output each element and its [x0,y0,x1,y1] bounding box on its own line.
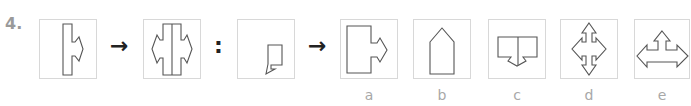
rect-right-arrow-icon [40,20,96,78]
option-label-a: a [359,87,379,103]
arrow-right-1: → [110,33,128,58]
pentagon-up-icon [414,20,470,78]
analogy-separator: : [214,33,223,58]
option-b[interactable] [413,19,471,79]
option-label-b: b [432,87,452,103]
premise-figure-2 [143,19,201,79]
large-rect-right-arrow-icon [341,20,397,78]
square-with-tab-icon [238,20,294,78]
option-label-d: d [579,87,599,103]
double-rect-left-right-arrow-icon [144,20,200,78]
option-d[interactable] [560,19,618,79]
four-way-arrow-icon [561,20,617,78]
three-way-arrow-icon [635,20,691,78]
option-e[interactable] [634,19,690,79]
option-a[interactable] [340,19,398,79]
premise-figure-3 [237,19,295,79]
question-number: 4. [5,14,22,33]
option-c[interactable] [488,19,546,79]
arrow-right-2: → [308,33,326,58]
premise-figure-1 [39,19,97,79]
option-label-c: c [507,87,527,103]
double-square-down-arrow-icon [489,20,545,78]
option-label-e: e [652,87,672,103]
